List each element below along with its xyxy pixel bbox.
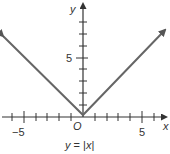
- chart: y x O −5 5 5 y = |x|: [0, 0, 170, 154]
- x-tick-label-5: 5: [139, 126, 145, 138]
- origin-label: O: [73, 120, 82, 132]
- y-axis-label: y: [69, 3, 77, 15]
- y-ticks: [76, 22, 88, 105]
- x-axis-label: x: [162, 120, 169, 132]
- caption: y = |x|: [64, 139, 94, 151]
- abs-value-graph: [3, 30, 165, 115]
- y-tick-label-5: 5: [66, 52, 72, 64]
- x-tick-label-neg5: −5: [12, 126, 25, 138]
